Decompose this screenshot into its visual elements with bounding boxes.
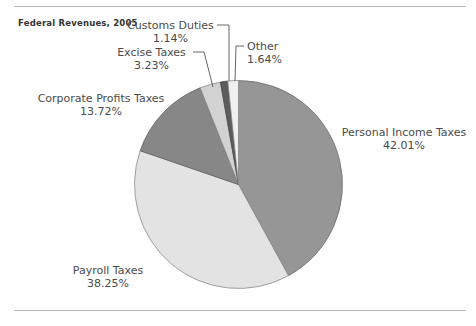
pie-label-other-pct: 1.64%	[247, 53, 282, 66]
pie-label-payroll-taxes-name: Payroll Taxes	[73, 264, 143, 277]
pie-label-personal-income-taxes-name: Personal Income Taxes	[342, 126, 467, 139]
leader-line-excise-taxes	[193, 52, 213, 87]
chart-page: Federal Revenues, 2005 Customs Duties 1.…	[0, 0, 476, 326]
leader-line-customs-duties	[217, 25, 229, 81]
pie-label-corporate-profits-taxes: Corporate Profits Taxes 13.72%	[36, 92, 166, 118]
pie-label-personal-income-taxes: Personal Income Taxes 42.01%	[340, 126, 468, 152]
pie-label-other: Other 1.64%	[247, 40, 282, 66]
pie-label-corporate-profits-taxes-pct: 13.72%	[36, 105, 166, 118]
pie-label-customs-duties-name: Customs Duties	[127, 19, 214, 32]
leader-line-other	[235, 46, 244, 81]
pie-label-customs-duties-pct: 1.14%	[124, 32, 217, 45]
pie-label-excise-taxes-pct: 3.23%	[111, 59, 192, 72]
pie-label-payroll-taxes-pct: 38.25%	[62, 277, 154, 290]
pie-label-excise-taxes-name: Excise Taxes	[117, 46, 186, 59]
pie-label-personal-income-taxes-pct: 42.01%	[340, 139, 468, 152]
pie-label-payroll-taxes: Payroll Taxes 38.25%	[62, 264, 154, 290]
pie-label-other-name: Other	[247, 40, 278, 53]
pie-label-customs-duties: Customs Duties 1.14%	[124, 19, 217, 45]
pie-label-corporate-profits-taxes-name: Corporate Profits Taxes	[38, 92, 165, 105]
pie-label-excise-taxes: Excise Taxes 3.23%	[111, 46, 192, 72]
